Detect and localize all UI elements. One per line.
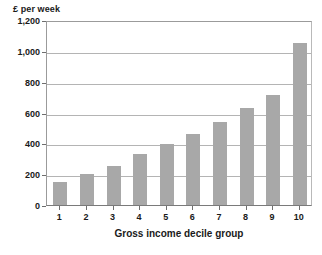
bar-chart-figure: £ per week 02004006008001,0001,200 12345…: [0, 0, 322, 255]
x-tick-label: 6: [190, 212, 195, 222]
y-tick-label: 600: [0, 109, 40, 119]
x-tick-label: 5: [163, 212, 168, 222]
y-tick-label: 200: [0, 170, 40, 180]
x-tick-mark: [86, 206, 87, 210]
x-tick-label: 2: [83, 212, 88, 222]
x-tick-mark: [246, 206, 247, 210]
x-tick-label: 10: [294, 212, 304, 222]
plot-area: [46, 21, 312, 206]
y-tick-label: 1,000: [0, 47, 40, 57]
x-tick-label: 9: [270, 212, 275, 222]
x-tick-mark: [139, 206, 140, 210]
bar: [240, 108, 254, 205]
x-tick-mark: [219, 206, 220, 210]
x-tick-label: 7: [216, 212, 221, 222]
x-tick-mark: [113, 206, 114, 210]
y-tick-label: 0: [0, 201, 40, 211]
y-tick-label: 400: [0, 139, 40, 149]
bar: [186, 134, 200, 205]
bar: [53, 182, 67, 205]
x-tick-label: 4: [137, 212, 142, 222]
x-tick-label: 1: [57, 212, 62, 222]
bar: [133, 154, 147, 205]
x-tick-mark: [166, 206, 167, 210]
bar: [293, 43, 307, 205]
x-tick-mark: [299, 206, 300, 210]
x-axis-title: Gross income decile group: [46, 228, 312, 239]
x-tick-label: 8: [243, 212, 248, 222]
bar: [266, 95, 280, 205]
y-axis-title: £ per week: [13, 4, 60, 14]
x-tick-label: 3: [110, 212, 115, 222]
y-tick-label: 1,200: [0, 16, 40, 26]
x-tick-mark: [59, 206, 60, 210]
bar: [80, 174, 94, 205]
y-tick-mark: [42, 206, 46, 207]
x-tick-mark: [192, 206, 193, 210]
y-tick-label: 800: [0, 78, 40, 88]
bar: [160, 144, 174, 205]
bar: [213, 122, 227, 205]
x-tick-mark: [272, 206, 273, 210]
bar: [107, 166, 121, 205]
bars-layer: [47, 22, 311, 205]
